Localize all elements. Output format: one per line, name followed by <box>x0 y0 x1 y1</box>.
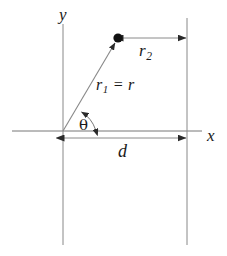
figure-canvas: y x r2 r1 = r θ d <box>0 0 227 256</box>
y-axis-label: y <box>59 6 67 23</box>
d-label: d <box>118 142 127 160</box>
r2-base: r <box>139 41 146 60</box>
x-axis-label: x <box>207 127 215 144</box>
equals-sign: = <box>113 76 124 93</box>
point-marker <box>113 33 122 42</box>
r2-label: r2 <box>139 42 152 62</box>
diagram-svg <box>0 0 227 256</box>
r-plain: r <box>128 76 134 93</box>
theta-label: θ <box>79 118 88 133</box>
r1-equals-r-label: r1 = r <box>96 77 134 95</box>
r2-subscript: 2 <box>146 50 152 63</box>
